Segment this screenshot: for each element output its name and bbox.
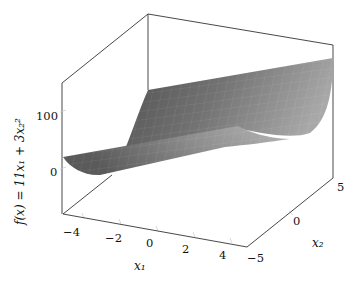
x1-axis-label: x₁ xyxy=(134,259,146,273)
x2-tick-label: 0 xyxy=(293,214,300,228)
z-tick-label: 100 xyxy=(36,109,58,123)
surface-plot: 100 0 −4 −2 0 2 4 −5 0 5 x₁ x₂ f(x) = 11… xyxy=(0,0,355,281)
surface xyxy=(63,58,333,175)
z-tick-label: 0 xyxy=(50,165,57,179)
x1-tick-label: 4 xyxy=(219,248,226,262)
x1-tick-label: −2 xyxy=(105,231,122,245)
x1-tick-label: −4 xyxy=(63,225,80,239)
x1-axis-ticks: −4 −2 0 2 4 xyxy=(63,225,226,262)
x2-tick-label: −5 xyxy=(247,251,264,265)
box-front-edges xyxy=(63,175,333,247)
x2-tick-label: 5 xyxy=(337,180,344,194)
x2-axis-label: x₂ xyxy=(312,236,324,250)
x2-axis-ticks: −5 0 5 xyxy=(247,180,344,265)
z-axis-label: f(x) = 11x₁ + 3x₂² xyxy=(13,118,27,226)
z-axis-ticks: 100 0 xyxy=(36,109,58,179)
x1-tick-label: 0 xyxy=(146,236,153,250)
x1-tick-label: 2 xyxy=(182,242,189,256)
